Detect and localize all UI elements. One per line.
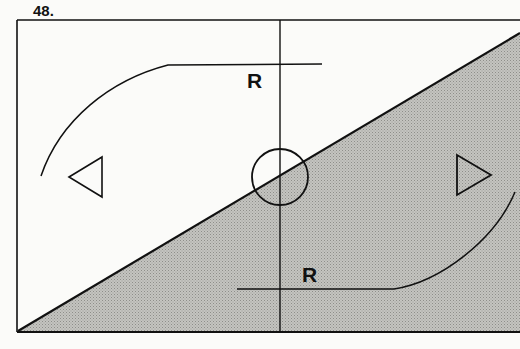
label-r-bottom: R xyxy=(302,263,317,286)
left-triangle-icon xyxy=(69,157,102,197)
label-r-top: R xyxy=(247,69,262,92)
diagram-canvas: R R xyxy=(0,0,520,349)
